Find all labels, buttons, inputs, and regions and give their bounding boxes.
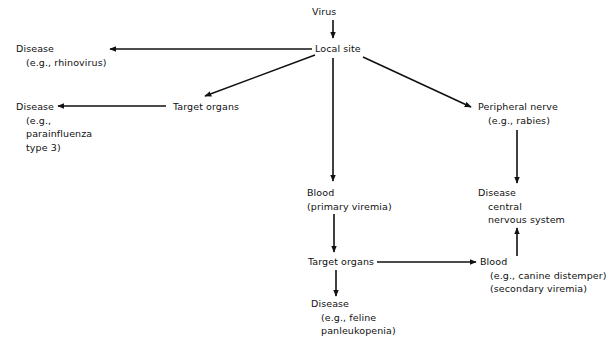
node-blood-secondary-label: Blood (480, 256, 507, 267)
node-blood-secondary-example: (e.g., canine distemper) (480, 269, 607, 283)
node-virus: Virus (312, 5, 336, 19)
viral-spread-diagram: Virus Local site Disease (e.g., rhinovir… (0, 0, 616, 349)
node-target-organs-2: Target organs (308, 255, 374, 269)
node-blood-primary-label: Blood (307, 187, 334, 198)
node-target-organs-1-label: Target organs (173, 101, 239, 112)
node-peripheral-nerve: Peripheral nerve (e.g., rabies) (478, 100, 558, 127)
node-disease-rhinovirus: Disease (e.g., rhinovirus) (16, 42, 107, 69)
arrow-local-site-to-target-organs (205, 55, 315, 96)
node-local-site: Local site (315, 42, 361, 56)
node-disease-feline: Disease (e.g., feline panleukopenia) (311, 297, 396, 338)
node-disease-rhinovirus-example: (e.g., rhinovirus) (16, 56, 107, 70)
node-blood-primary: Blood (primary viremia) (307, 186, 392, 213)
node-disease-feline-line1: (e.g., feline (311, 311, 396, 325)
node-disease-parainfluenza-line2: parainfluenza (16, 127, 92, 141)
node-blood-primary-sub: (primary viremia) (307, 200, 392, 214)
node-target-organs-1: Target organs (173, 100, 239, 114)
node-disease-cns-label: Disease (478, 187, 516, 198)
node-local-site-label: Local site (315, 43, 361, 54)
node-peripheral-nerve-label: Peripheral nerve (478, 101, 558, 112)
node-disease-parainfluenza-label: Disease (16, 101, 54, 112)
node-virus-label: Virus (312, 6, 336, 17)
node-disease-cns-line1: central (478, 200, 565, 214)
node-disease-parainfluenza-line1: (e.g., (16, 114, 92, 128)
node-disease-parainfluenza: Disease (e.g., parainfluenza type 3) (16, 100, 92, 154)
node-target-organs-2-label: Target organs (308, 256, 374, 267)
arrow-local-site-to-peripheral-nerve (363, 57, 471, 107)
node-blood-secondary: Blood (e.g., canine distemper) (secondar… (480, 255, 607, 296)
node-disease-feline-line2: panleukopenia) (311, 324, 396, 338)
node-disease-cns: Disease central nervous system (478, 186, 565, 227)
node-disease-rhinovirus-label: Disease (16, 43, 54, 54)
node-peripheral-nerve-example: (e.g., rabies) (478, 114, 558, 128)
node-blood-secondary-sub: (secondary viremia) (480, 282, 607, 296)
node-disease-feline-label: Disease (311, 298, 349, 309)
node-disease-cns-line2: nervous system (478, 213, 565, 227)
node-disease-parainfluenza-line3: type 3) (16, 141, 92, 155)
